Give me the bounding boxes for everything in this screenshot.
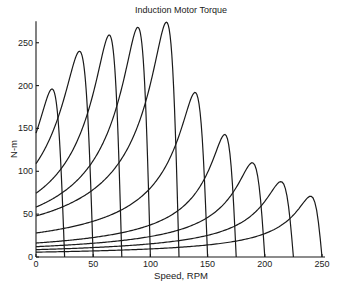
y-tick-label: 250 (18, 38, 33, 48)
x-axis-label: Speed, RPM (154, 270, 208, 281)
torque-curve-3 (36, 35, 122, 257)
y-tick-label: 100 (18, 166, 33, 176)
chart-title: Induction Motor Torque (135, 5, 227, 15)
x-tick-label: 200 (257, 259, 272, 269)
y-axis-label: N-m (8, 140, 19, 158)
torque-curve-4 (36, 27, 150, 257)
torque-chart: Induction Motor Torque 05010015020025005… (0, 0, 340, 286)
x-tick-label: 0 (33, 259, 38, 269)
y-tick-label: 150 (18, 123, 33, 133)
y-tick-label: 200 (18, 81, 33, 91)
y-tick-label: 50 (23, 209, 33, 219)
torque-curves (36, 22, 322, 257)
x-tick-label: 250 (314, 259, 329, 269)
x-tick-label: 150 (200, 259, 215, 269)
x-tick-label: 100 (143, 259, 158, 269)
torque-curve-2 (36, 51, 93, 257)
x-tick-label: 50 (88, 259, 98, 269)
y-tick-label: 0 (28, 252, 33, 262)
